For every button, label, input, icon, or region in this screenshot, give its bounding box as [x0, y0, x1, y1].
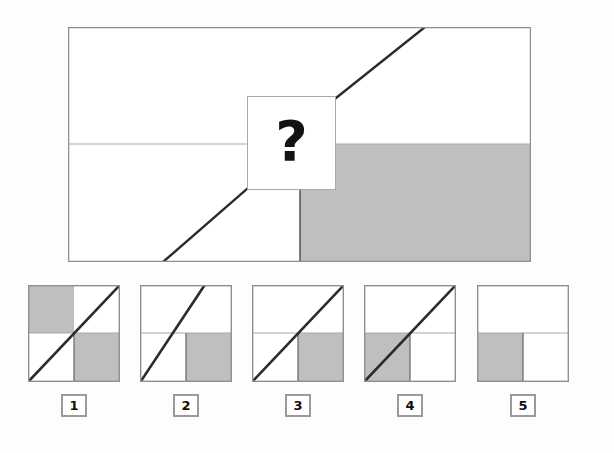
option-label-text-5: 5: [518, 398, 527, 413]
option-3-figure: [252, 285, 344, 382]
option-label-text-1: 1: [69, 398, 78, 413]
option-label-5[interactable]: 5: [510, 394, 536, 417]
option-2-shaded-bottom-right: [186, 333, 231, 381]
option-label-text-4: 4: [405, 398, 414, 413]
option-3[interactable]: [252, 285, 344, 382]
option-4-figure: [364, 285, 456, 382]
option-5[interactable]: [477, 285, 569, 382]
option-label-text-2: 2: [181, 398, 190, 413]
option-1-shaded-top-left: [29, 286, 74, 333]
option-1-figure: [28, 285, 120, 382]
option-5-shaded-bottom-left: [478, 333, 523, 381]
option-label-text-3: 3: [293, 398, 302, 413]
option-1-shaded-bottom-right: [74, 333, 119, 381]
answer-options-row: 12345: [0, 0, 614, 453]
option-3-shaded-bottom-right: [298, 333, 343, 381]
option-label-2[interactable]: 2: [173, 394, 199, 417]
puzzle-root: ? 12345: [0, 0, 614, 453]
option-label-3[interactable]: 3: [285, 394, 311, 417]
option-5-figure: [477, 285, 569, 382]
option-label-1[interactable]: 1: [61, 394, 87, 417]
option-2[interactable]: [140, 285, 232, 382]
option-label-4[interactable]: 4: [397, 394, 423, 417]
option-1[interactable]: [28, 285, 120, 382]
option-2-figure: [140, 285, 232, 382]
option-4[interactable]: [364, 285, 456, 382]
